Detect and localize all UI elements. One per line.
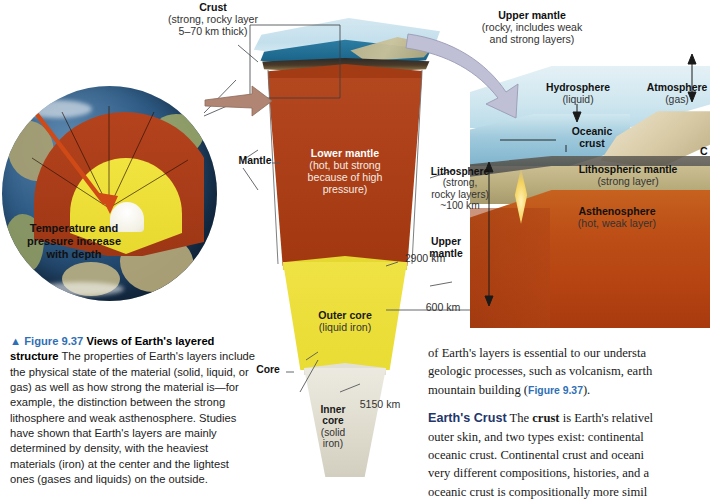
caption-title-cont: structure [10,350,59,362]
globe-radial-lines [2,86,217,301]
body-section-heading: Earth's Crust [428,411,507,425]
lithosphere-label: Lithosphere (strong, rocky layers) ~100 … [415,166,505,212]
body-text-column: of Earth's layers is essential to our un… [428,344,710,503]
continental-crust-label-clipped: C [700,146,710,158]
upper-mantle-callout: Upper mantle (rocky, includes weak and s… [462,10,602,46]
mantle-bracket-label: Mantle [232,155,278,167]
body-line-1: of Earth's layers is essential to our un… [428,346,646,360]
lower-mantle-label: Lower mantle (hot, but strong because of… [269,148,421,195]
body-paragraph-1: of Earth's layers is essential to our un… [428,344,710,399]
outer-core-label: Outer core (liquid iron) [289,310,401,334]
body-line-3-end: ). [583,383,590,397]
body-term-crust: crust [532,411,559,425]
body-line-4: The [510,411,533,425]
caption-triangle-icon: ▲ [10,335,21,347]
depth-600-label: 600 km [413,302,473,314]
inline-figure-reference[interactable]: Figure 9.37 [528,385,583,396]
body-line-8: oceanic crust is compositionally more si… [428,485,647,499]
body-line-4-end: is Earth's relativel [560,411,654,425]
block-side-face [470,208,550,328]
oceanic-crust-label: Oceanic crust [560,126,624,149]
body-line-7: very different compositions, histories, … [428,466,649,480]
caption-text: The properties of Earth's layers include… [10,350,255,485]
body-line-2: geologic processes, such as volcanism, e… [428,364,652,378]
upper-mantle-label: Upper mantle [418,236,474,259]
body-line-5: outer skin, and two types exist: contine… [428,430,644,444]
earth-cross-section-wedge: Lower mantle (hot, but strong because of… [245,0,445,477]
body-paragraph-2: Earth's Crust The crust is Earth's relat… [428,409,710,501]
caption-figure-number: Figure 9.37 [24,335,83,347]
atmosphere-label: Atmosphere (gas) [634,82,710,105]
caption-title: Views of Earth's layered [86,335,214,347]
crust-callout: Crust (strong, rocky layer 5–70 km thick… [148,2,278,38]
asthenosphere-label: Asthenosphere (hot, weak layer) [552,206,682,230]
body-line-3: mountain building ( [428,383,528,397]
globe-temperature-pressure-label: Temperature and pressure increase with d… [22,222,126,261]
lithospheric-mantle-label: Lithospheric mantle (strong layer) [566,164,690,187]
figure-caption: ▲ Figure 9.37 Views of Earth's layered s… [10,334,256,487]
hydrosphere-label: Hydrosphere (liquid) [534,82,622,105]
depth-5150-label: 5150 km [347,399,413,411]
globe-sphere [2,86,217,301]
body-line-6: oceanic crust. Continental crust and oce… [428,448,644,462]
globe-cutaway-illustration: Temperature and pressure increase with d… [2,86,217,308]
